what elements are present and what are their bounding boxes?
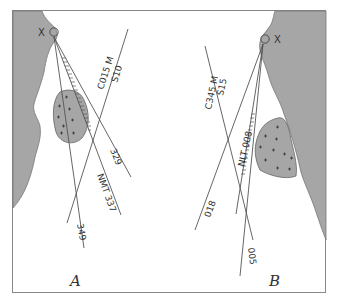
bearing-label-005: 005 (246, 247, 258, 265)
bearing-label-018: 018 (202, 199, 217, 219)
point-label-b: X (274, 34, 281, 45)
bearing-label-337: NMT 337 (95, 172, 118, 213)
panel-a: X C015 M S10 329 NMT 337 349 A (13, 11, 131, 290)
navigation-diagram: X C015 M S10 329 NMT 337 349 A (0, 0, 338, 306)
bearing-label-349: 349 (75, 223, 88, 242)
point-label-a: X (38, 27, 45, 38)
cross-line-label-bottom-b: S15 (215, 78, 228, 97)
panel-b: X C345 M S15 NLT 008 018 005 B (195, 11, 326, 290)
coastline-left (13, 11, 57, 208)
panel-label-a: A (68, 272, 81, 290)
bearing-label-329: 329 (108, 147, 124, 167)
panel-label-b: B (268, 272, 280, 290)
